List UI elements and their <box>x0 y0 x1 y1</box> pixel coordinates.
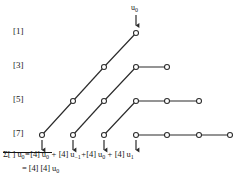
term-3-sub: 1 <box>131 154 134 160</box>
edge-diagonal <box>104 101 136 135</box>
lattice-node <box>71 133 76 138</box>
formula-line-1: Σ[ ] u0=[4] u0 + [4] u−1+[4] u0 + [4] u1 <box>3 149 134 160</box>
term-1-sub: −1 <box>74 154 80 160</box>
term-0-sub: 0 <box>46 154 49 160</box>
edge-diagonal <box>104 67 136 101</box>
lattice-node <box>134 31 139 36</box>
lattice-node <box>134 99 139 104</box>
sum-brackets: [ ] <box>8 149 16 159</box>
edge-diagonal <box>104 33 136 67</box>
formula-block: Σ[ ] u0=[4] u0 + [4] u−1+[4] u0 + [4] u1… <box>0 147 241 185</box>
node-group <box>40 31 233 138</box>
lattice-node <box>165 99 170 104</box>
lattice-node <box>40 133 45 138</box>
lattice-node <box>165 133 170 138</box>
term-2-coef: [4] <box>86 149 96 159</box>
plus-sign: + <box>107 149 113 159</box>
lattice-node <box>228 133 233 138</box>
lattice-node <box>134 133 139 138</box>
term-0-coef: [4] <box>30 149 40 159</box>
formula-line-2: = [4] [4] u0 <box>22 163 59 174</box>
term-2-sub: 0 <box>102 154 105 160</box>
equals-sign-2: = <box>22 163 27 173</box>
lattice-node <box>197 99 202 104</box>
lattice-node <box>102 65 107 70</box>
edge-diagonal <box>73 67 104 101</box>
lattice-node <box>197 133 202 138</box>
lattice-node <box>102 133 107 138</box>
term-1-coef: [4] <box>59 149 69 159</box>
line2-sub: 0 <box>56 168 59 174</box>
edge-group <box>42 33 230 135</box>
lattice-node <box>71 99 76 104</box>
plus-sign: + <box>51 149 57 159</box>
edge-diagonal <box>42 101 73 135</box>
line2-coef-2: [4] <box>40 163 50 173</box>
term-3-coef: [4] <box>115 149 125 159</box>
edge-diagonal <box>73 101 104 135</box>
figure-page: u0 [1] [3] [5] [7] <box>0 0 241 185</box>
lattice-node <box>134 65 139 70</box>
line2-coef-1: [4] <box>29 163 39 173</box>
lattice-node <box>102 99 107 104</box>
lattice-node <box>165 65 170 70</box>
